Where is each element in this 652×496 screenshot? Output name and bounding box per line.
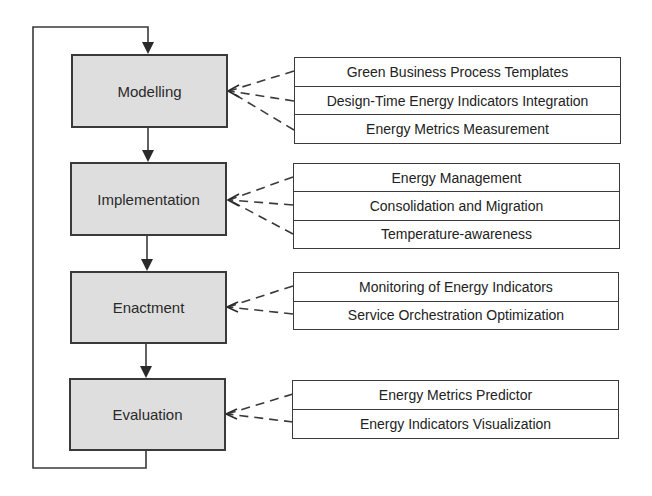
phase-label: Modelling <box>117 83 181 100</box>
detail-item: Energy Indicators Visualization <box>293 409 618 438</box>
flow-arrowhead-icon <box>141 259 153 271</box>
modelling-dashed-links <box>229 71 294 130</box>
enactment-dashed-links <box>228 286 293 314</box>
phase-label: Implementation <box>97 191 200 208</box>
evaluation-dashed-links <box>227 394 293 422</box>
detail-item: Energy Management <box>294 164 619 191</box>
detail-item: Green Business Process Templates <box>295 58 620 86</box>
detail-item: Design-Time Energy Indicators Integratio… <box>295 86 620 115</box>
implementation-details: Energy Management Consolidation and Migr… <box>293 163 620 249</box>
detail-item: Energy Metrics Measurement <box>295 114 620 143</box>
lifecycle-diagram: Modelling Implementation Enactment Evalu… <box>0 0 652 496</box>
open-arrowhead-icon <box>228 194 239 206</box>
evaluation-details: Energy Metrics Predictor Energy Indicato… <box>292 380 619 439</box>
phase-box-implementation: Implementation <box>70 162 227 236</box>
flow-arrowhead-icon <box>142 150 154 162</box>
phase-label: Evaluation <box>112 406 182 423</box>
loop-arrowhead-icon <box>142 42 154 54</box>
phase-box-evaluation: Evaluation <box>69 378 226 451</box>
phase-box-enactment: Enactment <box>70 271 227 344</box>
detail-item: Temperature-awareness <box>294 220 619 248</box>
phase-label: Enactment <box>113 299 185 316</box>
detail-item: Energy Metrics Predictor <box>293 381 618 409</box>
phase-box-modelling: Modelling <box>71 54 228 128</box>
detail-item: Service Orchestration Optimization <box>294 301 618 330</box>
detail-item: Consolidation and Migration <box>294 191 619 219</box>
modelling-details: Green Business Process Templates Design-… <box>294 57 621 144</box>
enactment-details: Monitoring of Energy Indicators Service … <box>293 272 619 330</box>
flow-arrowhead-icon <box>140 366 152 378</box>
detail-item: Monitoring of Energy Indicators <box>294 273 618 301</box>
